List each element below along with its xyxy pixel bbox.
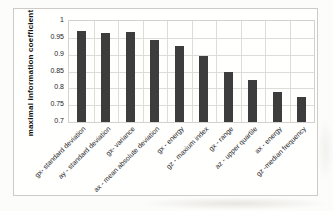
x-category-labels: gx- standard deviationay - standard devi… (0, 0, 333, 211)
x-category-label-text: gz -median frequency (255, 125, 308, 178)
x-category-label-text: ay - standard deviation (57, 125, 112, 180)
x-category-label: gz -median frequency (143, 125, 303, 133)
scanned-chart-figure: maximal information coefficient 10.950.9… (0, 0, 333, 211)
